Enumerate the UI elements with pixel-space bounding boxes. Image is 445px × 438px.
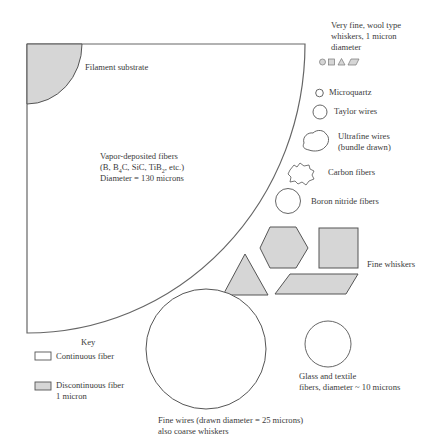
whisker-parallelogram xyxy=(275,274,358,294)
whisker-triangle xyxy=(223,254,268,295)
boron-nitride-label: Boron nitride fibers xyxy=(311,196,379,207)
taylor-wires-label: Taylor wires xyxy=(334,106,377,117)
ultrafine-line1: Ultrafine wires xyxy=(338,131,391,142)
boron-nitride-circle xyxy=(276,189,301,214)
ultrafine-wires-bundle xyxy=(303,130,328,151)
fine-wires-label: Fine wires (drawn diameter = 25 microns)… xyxy=(158,415,303,437)
glass-textile-circle xyxy=(305,321,351,367)
very-fine-whiskers-label: Very fine, wool type whiskers, 1 micron … xyxy=(331,20,401,53)
key-discontinuous-label: Discontinuous fiber 1 micron xyxy=(56,380,124,402)
tiny-triangle-icon xyxy=(338,59,345,66)
vapor-formula-b: C, SiC, TiB xyxy=(122,162,162,172)
vapor-formula-a: (B, B xyxy=(100,162,119,172)
glass-textile-label: Glass and textile fibers, diameter ~ 10 … xyxy=(299,371,400,393)
key-title: Key xyxy=(81,337,95,348)
glass-line1: Glass and textile xyxy=(299,371,400,382)
tiny-square-icon xyxy=(329,59,335,65)
key-discontinuous-swatch xyxy=(35,382,51,390)
fine-whiskers-shapes xyxy=(223,227,358,295)
key-discontinuous-line2: 1 micron xyxy=(56,391,124,402)
key-continuous-label: Continuous fiber xyxy=(56,351,114,362)
vapor-formula-c: , etc.) xyxy=(165,162,184,172)
microquartz-circle xyxy=(316,89,324,97)
carbon-fibers-label: Carbon fibers xyxy=(328,167,375,178)
whisker-hexagon xyxy=(260,227,308,268)
very-fine-line3: diameter xyxy=(331,42,401,53)
very-fine-line2: whiskers, 1 micron xyxy=(331,31,401,42)
filament-substrate-label: Filament substrate xyxy=(85,62,148,73)
ultrafine-line2: (bundle drawn) xyxy=(338,142,391,153)
fine-whiskers-label: Fine whiskers xyxy=(367,259,415,270)
taylor-wires-circle xyxy=(313,105,327,119)
fine-wires-circle xyxy=(146,289,266,409)
carbon-fibers-shape xyxy=(288,163,314,185)
vapor-deposited-label: Vapor-deposited fibers (B, B4C, SiC, TiB… xyxy=(100,151,184,184)
glass-line2: fibers, diameter ~ 10 microns xyxy=(299,382,400,393)
microquartz-label: Microquartz xyxy=(329,87,371,98)
vapor-line3: Diameter = 130 microns xyxy=(100,173,184,184)
key-discontinuous-line1: Discontinuous fiber xyxy=(56,380,124,391)
fine-wires-line1: Fine wires (drawn diameter = 25 microns) xyxy=(158,415,303,426)
key-continuous-swatch xyxy=(35,352,51,360)
fine-wires-line2: also coarse whiskers xyxy=(158,426,303,437)
vapor-line2: (B, B4C, SiC, TiB2, etc.) xyxy=(100,162,184,173)
wool-whisker-shapes xyxy=(320,59,360,66)
tiny-parallelogram-icon xyxy=(348,59,359,65)
very-fine-line1: Very fine, wool type xyxy=(331,20,401,31)
ultrafine-wires-label: Ultrafine wires (bundle drawn) xyxy=(338,131,391,153)
vapor-line1: Vapor-deposited fibers xyxy=(100,151,184,162)
tiny-circle-icon xyxy=(320,59,326,65)
whisker-square xyxy=(319,228,358,268)
